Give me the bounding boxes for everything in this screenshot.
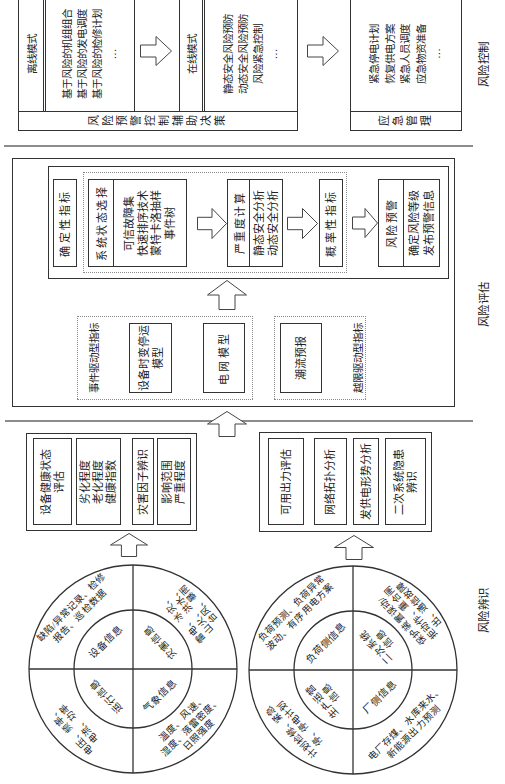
equipment-outage-model-box: 设备时变停运 模型	[129, 323, 172, 393]
offline-mode-title: 离线模式	[19, 0, 46, 111]
system-state-selection-title: 系统状态选择	[89, 180, 114, 266]
box-line: 健康指数	[105, 460, 118, 504]
severity-calculation-title: 严重度计算	[228, 180, 250, 266]
box-line: 影响范围	[161, 460, 174, 504]
risk-warning-box: 风险预警 确定风险等级 发布预警信息	[378, 179, 440, 267]
quadrant-circle-graphic	[28, 564, 238, 774]
section-label-risk-control: 风险控制	[475, 22, 491, 106]
severity-calculation-items: 静态安全分析 动态安全分析	[250, 180, 282, 266]
disaster-factor-identification-box: 灾害因子辨识	[132, 438, 154, 525]
probabilistic-indicator-box: 概率性指标	[319, 179, 343, 267]
online-mode-panel: 在线模式 静态安全风险预防 动态安全风险预防 风险紧急控制 …	[179, 0, 296, 111]
system-state-selection-methods: 可信故障集 快速排序技术 蒙特卡洛抽样 事件树	[114, 180, 186, 266]
box-line: 设备健康状态	[40, 449, 53, 515]
degradation-indices-box: 劣化程度 老化程度 健康指数	[76, 438, 121, 525]
emergency-management-box: 应急管理 紧急停电计划 恢复供电方案 紧急人员调度 应急物资准备 …	[350, 0, 462, 131]
method-item: 事件树	[164, 207, 178, 240]
generation-supply-analysis-box: 发供电形势分析	[353, 438, 379, 525]
arrow-right-icon	[207, 411, 247, 437]
offline-item: 基于风险的发电调度	[75, 9, 90, 99]
online-mode-title: 在线模式	[180, 0, 205, 111]
arrow-down-icon	[287, 208, 318, 239]
box-line: 老化程度	[92, 460, 105, 504]
available-output-assessment-box: 可用出力评估	[268, 438, 304, 525]
arrow-right-icon	[207, 280, 247, 310]
box-line: 可用出力评估	[280, 449, 293, 515]
risk-management-flow-diagram: 风险辨识 风险评估 风险控制 风险预警控制辅助决策 离线模式 基于风险的机组组合…	[0, 0, 505, 784]
grid-model-box: 电网模型	[203, 323, 245, 393]
emergency-management-items: 紧急停电计划 恢复供电方案 紧急人员调度 应急物资准备 …	[351, 0, 461, 111]
arrow-right-icon	[334, 535, 374, 560]
equipment-outage-model-line: 设备时变停运	[137, 325, 151, 391]
arrow-down-icon	[140, 36, 172, 66]
online-item: 动态安全风险预防	[236, 14, 251, 94]
box-line: 网络拓扑分析	[324, 449, 337, 515]
online-mode-items: 静态安全风险预防 动态安全风险预防 风险紧急控制 …	[205, 0, 296, 111]
risk-warning-title: 风险预警	[379, 180, 404, 266]
risk-warning-items: 确定风险等级 发布预警信息	[404, 180, 439, 266]
method-item: 蒙特卡洛抽样	[150, 190, 164, 256]
deterministic-indicator-box: 确定性指标	[53, 179, 77, 267]
analysis-item: 静态安全分析	[252, 190, 266, 256]
method-item: 可信故障集	[123, 196, 137, 251]
section-label-risk-assessment: 风险评估	[475, 262, 491, 346]
analysis-item: 动态安全分析	[266, 190, 280, 256]
offline-mode-items: 基于风险的机组组合 基于风险的发电调度 基于风险的检修计划 …	[46, 0, 134, 111]
network-topology-analysis-box: 网络拓扑分析	[314, 438, 347, 525]
section-label-risk-identification: 风险辨识	[475, 568, 491, 652]
online-item: 静态安全风险预防	[221, 14, 236, 94]
emergency-management-label: 应急管理	[351, 111, 461, 130]
warning-item: 发布预警信息	[422, 190, 437, 256]
online-item: 风险紧急控制	[251, 24, 266, 84]
limit-driven-indicator-label: 越限驱动型指标	[350, 316, 365, 400]
emergency-item: 应急物资准备	[414, 24, 430, 84]
event-driven-indicator-label: 事件驱动型指标	[86, 316, 101, 400]
system-state-selection-box: 系统状态选择 可信故障集 快速排序技术 蒙特卡洛抽样 事件树	[88, 179, 187, 267]
box-line: 发供电形势分析	[360, 443, 373, 520]
arrow-down-icon	[307, 36, 339, 66]
severity-calculation-box: 严重度计算 静态安全分析 动态安全分析	[227, 179, 283, 267]
offline-mode-panel: 离线模式 基于风险的机组组合 基于风险的发电调度 基于风险的检修计划 …	[19, 0, 135, 111]
power-flow-forecast-box: 潮流预报	[280, 323, 322, 393]
box-line: 灾害因子辨识	[137, 449, 150, 515]
box-line: 评估	[53, 471, 66, 493]
emergency-item: 紧急人员调度	[398, 24, 414, 84]
emergency-item-ellipsis: …	[429, 48, 445, 59]
arrow-down-icon	[197, 208, 227, 239]
grid-model-label: 电网模型	[218, 331, 231, 385]
quadrant-circle-graphic	[248, 565, 458, 775]
box-line: 辨识	[406, 471, 419, 493]
impact-scope-severity-box: 影响范围 严重程度	[157, 438, 191, 525]
offline-item: 基于风险的检修计划	[90, 9, 105, 99]
warning-item: 确定风险等级	[407, 190, 422, 256]
decision-support-label: 风险预警控制辅助决策	[19, 111, 297, 130]
equipment-information-circle: 运行信息 电压、频率、 电流、功率 设备信息 缺陷/异常记录、检修 报告、巡检数…	[28, 564, 238, 774]
arrow-down-icon	[352, 208, 378, 238]
box-line: 劣化程度	[79, 460, 92, 504]
box-line: 严重程度	[174, 460, 187, 504]
equipment-outage-model-line: 模型	[151, 347, 165, 369]
grid-information-circle: 生产运营 信息 计划检修、紧急 停、停电计划 负荷侧信息 负荷预测、负荷异常 波…	[248, 565, 458, 775]
probabilistic-indicator-label: 概率性指标	[325, 189, 338, 257]
secondary-system-hazard-box: 二次系统隐患 辨识	[385, 438, 426, 525]
power-flow-forecast-label: 潮流预报	[295, 336, 308, 380]
divider-assessment-control	[4, 145, 473, 147]
deterministic-indicator-label: 确定性指标	[59, 189, 72, 257]
method-item: 快速排序技术	[137, 190, 151, 256]
online-item-ellipsis: …	[266, 49, 281, 60]
emergency-item: 紧急停电计划	[367, 24, 383, 84]
box-line: 二次系统隐患	[393, 449, 406, 515]
offline-item-ellipsis: …	[105, 49, 120, 60]
equipment-health-assessment-box: 设备健康状态 评估	[33, 438, 72, 525]
offline-item: 基于风险的机组组合	[60, 9, 75, 99]
arrow-right-icon	[110, 533, 148, 557]
emergency-item: 恢复供电方案	[383, 24, 399, 84]
